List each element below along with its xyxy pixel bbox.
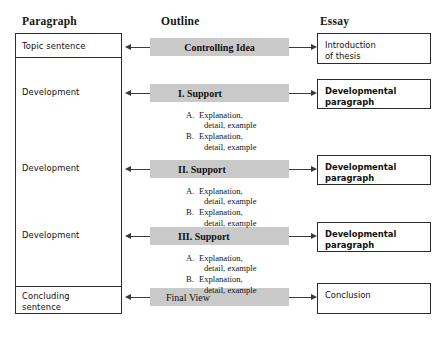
- column-header-essay: Essay: [320, 15, 349, 27]
- paragraph-divider-2: [15, 286, 122, 287]
- arrow-left-icon: [125, 233, 131, 239]
- essay-box-label: Developmental paragraph: [325, 229, 396, 251]
- connector-line-right-1: [289, 47, 311, 48]
- sublist-marker: B.: [186, 274, 194, 284]
- arrow-right-icon: [311, 166, 317, 172]
- sublist-item: B. Explanation, detail, example: [186, 274, 306, 294]
- outline-bar-label: II. Support: [178, 164, 226, 175]
- column-header-outline: Outline: [161, 15, 199, 27]
- outline-sublist-3: A. Explanation, detail, example B. Expla…: [186, 253, 306, 296]
- arrow-left-icon: [125, 90, 131, 96]
- outline-bar-label: III. Support: [178, 231, 230, 242]
- outline-bar-support-3: III. Support: [150, 227, 289, 245]
- sublist-line-2: detail, example: [199, 263, 306, 273]
- outline-bar-label: I. Support: [178, 88, 222, 99]
- sublist-text: Explanation, detail, example: [199, 110, 306, 130]
- connector-line-right-2: [289, 93, 311, 94]
- sublist-marker: B.: [186, 131, 194, 141]
- connector-line-left-5: [131, 297, 150, 298]
- sublist-text: Explanation, detail, example: [199, 253, 306, 273]
- connector-line-left-3: [131, 169, 150, 170]
- sublist-item: A. Explanation, detail, example: [186, 110, 306, 130]
- sublist-marker: A.: [186, 253, 194, 263]
- connector-line-left-1: [131, 47, 150, 48]
- outline-bar-label: Controlling Idea: [184, 42, 255, 53]
- essay-box-label: Introduction of thesis: [325, 40, 376, 62]
- essay-box-label: Developmental paragraph: [325, 86, 396, 108]
- essay-box-conclusion: Conclusion: [317, 283, 431, 314]
- sublist-line-1: Explanation,: [199, 274, 243, 284]
- arrow-left-icon: [125, 166, 131, 172]
- connector-line-left-2: [131, 93, 150, 94]
- sublist-line-1: Explanation,: [199, 253, 243, 263]
- sublist-line-2: detail, example: [199, 285, 306, 295]
- paragraph-item-topic-sentence: Topic sentence: [22, 41, 85, 52]
- outline-bar-controlling-idea: Controlling Idea: [150, 38, 289, 56]
- paragraph-item-concluding-sentence: Concluding sentence: [22, 291, 70, 313]
- sublist-marker: A.: [186, 186, 194, 196]
- connector-line-right-3: [289, 169, 311, 170]
- sublist-item: B. Explanation, detail, example: [186, 207, 306, 227]
- sublist-text: Explanation, detail, example: [199, 274, 306, 294]
- sublist-line-1: Explanation,: [199, 186, 243, 196]
- sublist-text: Explanation, detail, example: [199, 186, 306, 206]
- sublist-line-1: Explanation,: [199, 110, 243, 120]
- essay-box-developmental-2: Developmental paragraph: [317, 155, 431, 185]
- sublist-marker: A.: [186, 110, 194, 120]
- essay-box-developmental-1: Developmental paragraph: [317, 79, 431, 109]
- essay-box-developmental-3: Developmental paragraph: [317, 222, 431, 252]
- arrow-right-icon: [311, 90, 317, 96]
- sublist-line-1: Explanation,: [199, 207, 243, 217]
- arrow-right-icon: [311, 233, 317, 239]
- sublist-item: B. Explanation, detail, example: [186, 131, 306, 151]
- sublist-marker: B.: [186, 207, 194, 217]
- sublist-line-2: detail, example: [199, 196, 306, 206]
- sublist-line-1: Explanation,: [199, 131, 243, 141]
- paragraph-divider-1: [15, 57, 122, 58]
- essay-box-label: Conclusion: [325, 290, 371, 301]
- paragraph-item-development-3: Development: [22, 230, 79, 241]
- connector-line-right-4: [289, 236, 311, 237]
- essay-box-label: Developmental paragraph: [325, 162, 396, 184]
- essay-structure-diagram: Paragraph Outline Essay Topic sentence D…: [0, 0, 443, 340]
- outline-bar-support-1: I. Support: [150, 84, 289, 102]
- sublist-line-2: detail, example: [199, 218, 306, 228]
- paragraph-item-development-1: Development: [22, 87, 79, 98]
- arrow-right-icon: [311, 294, 317, 300]
- arrow-right-icon: [311, 44, 317, 50]
- outline-sublist-2: A. Explanation, detail, example B. Expla…: [186, 186, 306, 229]
- connector-line-left-4: [131, 236, 150, 237]
- paragraph-item-development-2: Development: [22, 163, 79, 174]
- sublist-line-2: detail, example: [199, 142, 306, 152]
- sublist-text: Explanation, detail, example: [199, 207, 306, 227]
- sublist-text: Explanation, detail, example: [199, 131, 306, 151]
- outline-sublist-1: A. Explanation, detail, example B. Expla…: [186, 110, 306, 153]
- outline-bar-support-2: II. Support: [150, 160, 289, 178]
- column-header-paragraph: Paragraph: [22, 15, 77, 27]
- sublist-item: A. Explanation, detail, example: [186, 186, 306, 206]
- sublist-item: A. Explanation, detail, example: [186, 253, 306, 273]
- sublist-line-2: detail, example: [199, 120, 306, 130]
- arrow-left-icon: [125, 294, 131, 300]
- essay-box-introduction: Introduction of thesis: [317, 33, 431, 64]
- connector-line-right-5: [289, 297, 311, 298]
- arrow-left-icon: [125, 44, 131, 50]
